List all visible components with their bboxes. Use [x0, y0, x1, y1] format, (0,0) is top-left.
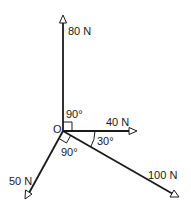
force-diagram: 80 N 40 N 100 N 50 N O 90° 30° 90°: [0, 0, 191, 215]
force-50n-line: [29, 131, 63, 193]
angle-arc-30: [91, 131, 95, 147]
right-angle-marker-upper: [63, 122, 72, 131]
angle-label-90-lower: 90°: [61, 147, 78, 158]
force-label-100n: 100 N: [148, 170, 177, 181]
angle-label-30: 30°: [97, 136, 114, 147]
force-label-80n: 80 N: [68, 26, 91, 37]
force-label-50n: 50 N: [9, 176, 32, 187]
arrowhead-up-icon: [60, 15, 67, 23]
origin-label: O: [53, 124, 62, 135]
force-label-40n: 40 N: [106, 117, 129, 128]
arrowhead-right-icon: [129, 128, 137, 135]
force-100n-line: [63, 131, 173, 194]
angle-label-90-upper: 90°: [66, 109, 83, 120]
arrowhead-down-left-icon: [25, 190, 32, 199]
